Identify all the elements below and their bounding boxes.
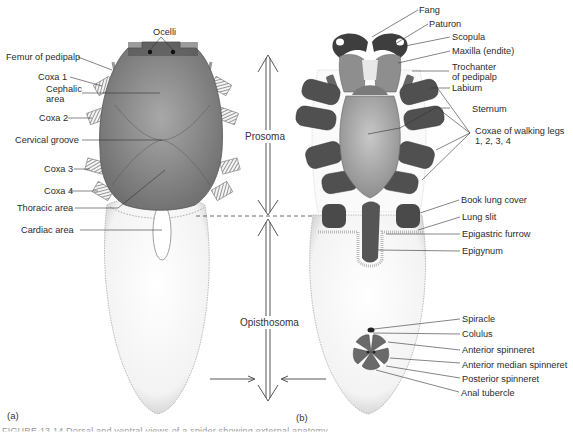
label-cephalic-area: Cephalic area: [46, 84, 82, 104]
label-coxa-4: Coxa 4: [44, 186, 73, 196]
label-femur-of-pedipalp: Femur of pedipalp: [6, 52, 80, 62]
label-fang: Fang: [419, 5, 440, 15]
label-coxa-2: Coxa 2: [39, 113, 68, 123]
panel-b-label: (b): [296, 412, 308, 423]
label-coxae-of-walking-legs: Coxae of walking legs 1, 2, 3, 4: [475, 126, 564, 146]
prosoma-label: Prosoma: [245, 130, 285, 143]
label-paturon: Paturon: [429, 19, 461, 29]
label-trochanter-of-pedipalp: Trochanter of pedipalp: [452, 62, 497, 82]
label-book-lung-cover: Book lung cover: [461, 195, 527, 205]
label-sternum: Sternum: [472, 104, 507, 114]
panel-a-label: (a): [7, 410, 19, 421]
label-coxa-3: Coxa 3: [44, 164, 73, 174]
label-anterior-spinneret: Anterior spinneret: [462, 345, 535, 355]
label-lung-slit: Lung slit: [462, 212, 496, 222]
label-colulus: Colulus: [462, 329, 493, 339]
label-coxa-1: Coxa 1: [38, 72, 67, 82]
label-maxilla: Maxilla (endite): [452, 46, 514, 56]
label-epigastric-furrow: Epigastric furrow: [462, 229, 530, 239]
label-ocelli: Ocelli: [153, 27, 176, 37]
label-cervical-groove: Cervical groove: [15, 135, 79, 145]
label-thoracic-area: Thoracic area: [17, 203, 73, 213]
label-scopula: Scopula: [452, 32, 485, 42]
label-anterior-median-spinneret: Anterior median spinneret: [462, 360, 567, 370]
opisthosoma-label: Opisthosoma: [240, 316, 299, 329]
label-posterior-spinneret: Posterior spinneret: [462, 374, 539, 384]
ventral-view: [295, 10, 470, 414]
label-cardiac-area: Cardiac area: [21, 225, 74, 235]
label-labium: Labium: [452, 83, 482, 93]
dorsal-view: [68, 37, 240, 414]
label-anal-tubercle: Anal tubercle: [461, 388, 515, 398]
label-spiracle: Spiracle: [462, 314, 495, 324]
label-epigynum: Epigynum: [462, 246, 503, 256]
spider-anatomy-figure: Prosoma Opisthosoma (a) (b) Ocelli Femur…: [0, 0, 573, 433]
